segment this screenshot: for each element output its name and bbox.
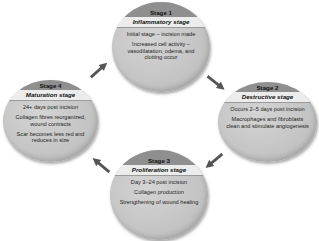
stage-4-label: Stage 4 xyxy=(3,80,98,90)
stage-4-circle: Stage 4 Maturation stage 24+ days post i… xyxy=(3,80,98,162)
arrow-icon-stage1-to-stage2 xyxy=(205,73,227,93)
stage-1-point-1: Initial stage – incision made xyxy=(119,31,203,38)
stage-1-points: Initial stage – incision made Increased … xyxy=(119,28,203,64)
stage-3-points: Day 3–24 post incision Collagen producti… xyxy=(117,176,201,209)
stage-4-point-3: Scar becomes less red and reduces in siz… xyxy=(10,131,92,144)
arrow-icon-stage4-to-stage1 xyxy=(88,60,110,81)
stage-2-point-2: Macrophages and fibroblasts clean and st… xyxy=(225,116,310,129)
stage-1-point-2: Increased cell activity – vasodilatation… xyxy=(119,41,203,61)
stage-1-name: Inflammatory stage xyxy=(112,17,210,28)
stage-3-point-1: Day 3–24 post incision xyxy=(117,179,201,186)
stage-1-circle: Stage 1 Inflammatory stage Initial stage… xyxy=(112,2,210,92)
stage-4-name: Maturation stage xyxy=(3,90,98,101)
arrow-icon-stage2-to-stage3 xyxy=(203,151,225,171)
stage-2-points: Occurs 2–5 days post incision Macrophage… xyxy=(225,103,310,133)
stage-1-label: Stage 1 xyxy=(112,2,210,17)
stage-3-point-2: Collagen production xyxy=(117,189,201,196)
stage-4-point-2: Collagen fibres reorganized, wound contr… xyxy=(10,114,92,127)
stage-2-name: Destructive stage xyxy=(218,92,317,103)
stage-2-label: Stage 2 xyxy=(218,82,317,92)
stage-3-name: Proliferation stage xyxy=(110,165,208,176)
stage-3-label: Stage 3 xyxy=(110,150,208,165)
stage-3-circle: Stage 3 Proliferation stage Day 3–24 pos… xyxy=(110,150,208,240)
arrow-icon-stage3-to-stage4 xyxy=(90,155,112,175)
stage-4-points: 24+ days post incision Collagen fibres r… xyxy=(10,101,92,147)
stage-2-circle: Stage 2 Destructive stage Occurs 2–5 day… xyxy=(218,82,317,162)
stage-2-point-1: Occurs 2–5 days post incision xyxy=(225,106,310,113)
stage-4-point-1: 24+ days post incision xyxy=(10,104,92,111)
stage-3-point-3: Strengthening of wound healing xyxy=(117,199,201,206)
